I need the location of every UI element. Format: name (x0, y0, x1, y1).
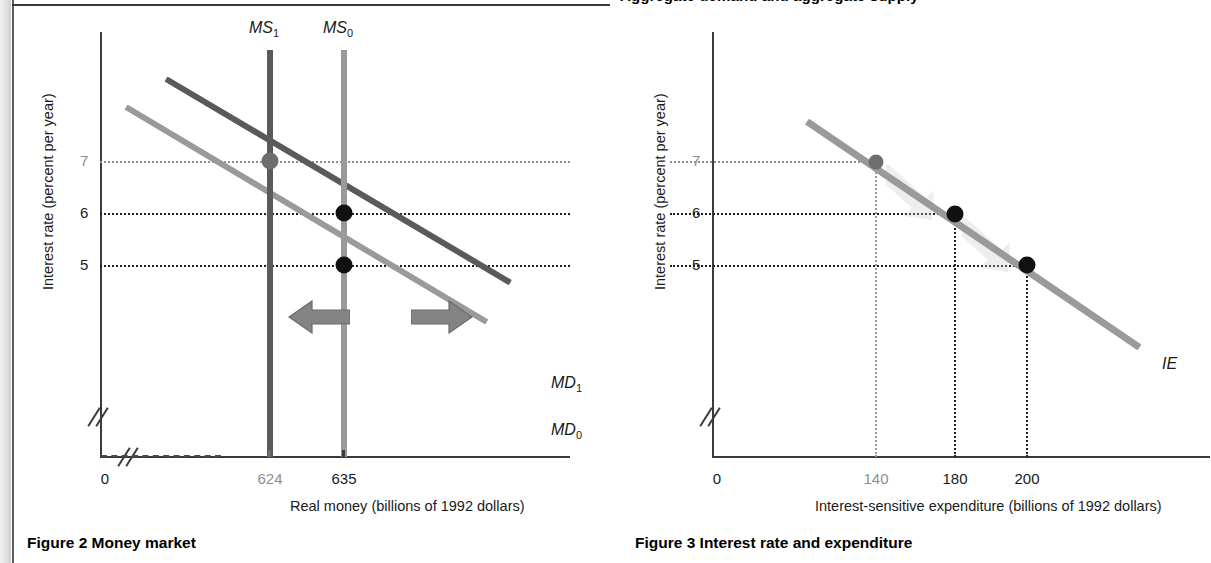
figure-2-xtick-mark-635 (342, 450, 345, 457)
figure-2-label-md1-text: MD (551, 374, 576, 391)
figure-2-label-ms1-text: MS (249, 19, 273, 36)
figure-3-xtick-180: 180 (942, 470, 967, 487)
figure-2-gridline-7 (100, 161, 570, 163)
figure-3-xtick-200: 200 (1014, 470, 1039, 487)
figure-3-expenditure-panel: 7 6 5 IE 0 140 180 200 Interest-sensitiv… (610, 0, 1211, 563)
figure-3-gridline-7 (670, 161, 880, 163)
figure-3-xtick-140: 140 (863, 470, 888, 487)
figure-3-ytick-7: 7 (692, 152, 700, 169)
figure-3-point-dot-6 (947, 206, 964, 223)
figure-2-label-ms0: MS0 (323, 19, 353, 39)
figure-2-equilibrium-dot-7 (262, 153, 279, 170)
figure-2-money-market-panel: 7 6 5 MS1 MS0 MD1 MD0 (0, 0, 610, 563)
figure-2-curve-ms0 (341, 50, 347, 457)
figure-2-label-ms1: MS1 (249, 19, 279, 39)
figure-2-equilibrium-dot-5 (336, 257, 353, 274)
figure-2-label-md0-text: MD (551, 421, 576, 438)
figure-2-x-axis-dashed-stub (101, 455, 221, 457)
figure-2-ytick-5: 5 (80, 256, 88, 273)
figure-2-y-axis-title: Interest rate (percent per year) (40, 93, 56, 290)
figure-3-ytick-5: 5 (692, 256, 700, 273)
figure-2-curve-md1 (164, 76, 511, 285)
figure-2-y-axis (100, 32, 102, 457)
figure-2-curve-ms1 (267, 50, 273, 457)
figure-3-curve-ie (805, 119, 1141, 351)
figure-2-caption: Figure 2 Money market (27, 534, 196, 552)
figure-3-x-axis-title: Interest-sensitive expenditure (billions… (815, 498, 1162, 514)
figure-2-label-md1-sub: 1 (576, 382, 582, 394)
figure-2-equilibrium-dot-6 (336, 205, 353, 222)
figure-2-xtick-635: 635 (331, 470, 356, 487)
figure-2-label-ms0-text: MS (323, 19, 347, 36)
figure-3-plot-area: 7 6 5 IE 0 140 180 200 Interest-sensitiv… (610, 0, 1211, 563)
figure-3-caption: Figure 3 Interest rate and expenditure (635, 534, 912, 552)
figure-3-point-dot-7 (869, 155, 884, 170)
figure-2-label-ms0-sub: 0 (347, 27, 353, 39)
figure-2-x-axis-title: Real money (billions of 1992 dollars) (290, 498, 525, 514)
figure-2-label-md1: MD1 (551, 374, 582, 394)
figure-2-label-ms1-sub: 1 (273, 27, 279, 39)
figure-2-y-axis-break-icon (88, 404, 114, 430)
figure-3-dropline-180 (954, 213, 956, 457)
figure-2-label-md0-sub: 0 (576, 429, 582, 441)
figure-3-y-axis (712, 32, 714, 457)
figure-2-origin-label: 0 (101, 470, 109, 487)
figure-3-point-dot-5 (1019, 257, 1036, 274)
figure-2-ytick-7: 7 (80, 152, 88, 169)
figure-2-plot-area: 7 6 5 MS1 MS0 MD1 MD0 (0, 0, 610, 563)
figure-2-xtick-624: 624 (257, 470, 282, 487)
figure-3-y-axis-title: Interest rate (percent per year) (652, 93, 668, 290)
figure-3-x-axis (712, 456, 1210, 458)
figure-3-droplne-140 (875, 161, 877, 457)
figure-2-ytick-6: 6 (80, 204, 88, 221)
figure-2-x-axis-break-icon (118, 444, 144, 470)
figure-2-left-shift-arrow-icon (288, 300, 350, 338)
figure-3-ytick-6: 6 (692, 204, 700, 221)
figure-3-origin-label: 0 (713, 470, 721, 487)
figure-3-dropline-200 (1026, 265, 1028, 457)
figure-3-label-ie: IE (1162, 355, 1177, 373)
figure-3-y-axis-break-icon (700, 404, 726, 430)
figure-2-label-md0: MD0 (551, 421, 582, 441)
figure-2-xtick-mark-624 (268, 450, 271, 457)
figure-2-right-shift-arrow-icon (411, 300, 473, 338)
